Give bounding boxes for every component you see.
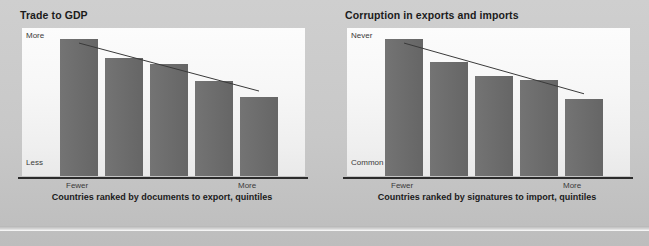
x-tick-more-left: More bbox=[238, 181, 256, 190]
x-axis-title-right: Countries ranked by signatures to import… bbox=[325, 192, 649, 202]
x-axis-line-right bbox=[343, 177, 633, 179]
bar-quintile-3 bbox=[475, 76, 513, 176]
plot-area-right bbox=[347, 28, 630, 176]
bar-quintile-1 bbox=[60, 39, 98, 176]
panels-row: Trade to GDP More Less Fewer More Countr… bbox=[0, 0, 649, 205]
y-axis-top-label-left: More bbox=[26, 31, 44, 40]
bar-quintile-3 bbox=[150, 64, 188, 176]
chart-panel-trade-to-gdp: Trade to GDP More Less Fewer More Countr… bbox=[0, 0, 324, 205]
x-axis-line-left bbox=[18, 177, 308, 179]
bottom-edge bbox=[0, 226, 649, 231]
bar-quintile-1 bbox=[385, 39, 423, 176]
chart-panel-corruption: Corruption in exports and imports Never … bbox=[325, 0, 649, 205]
x-axis-title-left: Countries ranked by documents to export,… bbox=[0, 192, 324, 202]
chart-title-right: Corruption in exports and imports bbox=[345, 9, 519, 21]
bar-quintile-4 bbox=[520, 80, 558, 176]
bar-quintile-2 bbox=[105, 58, 143, 176]
bar-quintile-5 bbox=[240, 97, 278, 176]
chart-title-left: Trade to GDP bbox=[20, 9, 88, 21]
y-axis-bottom-label-left: Less bbox=[26, 158, 43, 167]
bar-group-left bbox=[60, 28, 278, 176]
x-tick-fewer-right: Fewer bbox=[391, 181, 413, 190]
figure-container: Trade to GDP More Less Fewer More Countr… bbox=[0, 0, 649, 246]
plot-area-left bbox=[22, 28, 305, 176]
bar-quintile-4 bbox=[195, 81, 233, 176]
bar-group-right bbox=[385, 28, 603, 176]
x-tick-fewer-left: Fewer bbox=[66, 181, 88, 190]
y-axis-top-label-right: Never bbox=[351, 31, 372, 40]
bar-quintile-5 bbox=[565, 99, 603, 176]
y-axis-bottom-label-right: Common bbox=[351, 158, 383, 167]
bar-quintile-2 bbox=[430, 62, 468, 176]
x-tick-more-right: More bbox=[563, 181, 581, 190]
